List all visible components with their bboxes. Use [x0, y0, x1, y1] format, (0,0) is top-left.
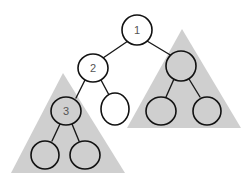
node-circle — [101, 93, 129, 125]
edge-2-child — [101, 80, 109, 95]
node-2-right-child — [101, 93, 129, 125]
node-right-right-child — [193, 97, 221, 125]
node-right-left-child — [146, 97, 176, 125]
node-right-subtree-root — [166, 51, 196, 81]
edge-2-3 — [76, 80, 85, 98]
node-circle — [166, 51, 196, 81]
edge-1-2 — [103, 41, 128, 58]
node-circle — [193, 97, 221, 125]
node-3: 3 — [51, 97, 81, 125]
node-2: 2 — [78, 54, 108, 82]
edge-1-right — [147, 41, 172, 56]
node-label: 1 — [134, 24, 140, 36]
node-circle — [146, 97, 176, 125]
node-3-right-child — [70, 141, 100, 169]
binary-tree-diagram: 1 2 3 — [0, 0, 252, 186]
node-circle — [31, 141, 59, 169]
node-label: 2 — [90, 62, 96, 74]
node-1: 1 — [122, 15, 152, 45]
node-label: 3 — [63, 105, 69, 117]
node-3-left-child — [31, 141, 59, 169]
node-circle — [70, 141, 100, 169]
